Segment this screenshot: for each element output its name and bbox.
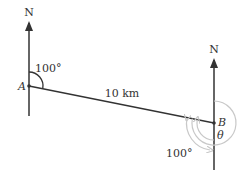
north-line-b xyxy=(210,58,218,170)
bearing-diagram: N N 100° 10 km A B θ 100° xyxy=(0,0,246,177)
point-b xyxy=(212,121,216,125)
north-label-b: N xyxy=(209,43,219,56)
north-arrow-icon-a xyxy=(25,21,33,31)
north-label-a: N xyxy=(24,6,34,19)
point-label-a: A xyxy=(17,80,26,93)
alt-angle-arc-outer xyxy=(186,118,210,150)
point-a xyxy=(27,84,31,88)
north-arrow-icon-b xyxy=(210,58,218,68)
point-label-b: B xyxy=(217,116,226,129)
theta-label: θ xyxy=(217,129,224,142)
north-line-a xyxy=(25,21,33,116)
angle-label-a: 100° xyxy=(35,62,62,75)
angle-label-b: 100° xyxy=(166,147,193,160)
distance-label: 10 km xyxy=(105,87,140,100)
